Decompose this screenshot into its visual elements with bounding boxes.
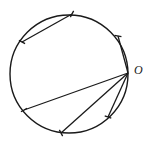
tick-marks-group [19, 11, 122, 136]
tick-mark-point-f [115, 35, 122, 36]
circle-outline [10, 15, 128, 133]
point-label-o: O [134, 64, 143, 76]
geometry-figure-canvas: O [0, 0, 154, 144]
chord-o-to-bottom [61, 73, 128, 133]
circle-chords-diagram [0, 0, 154, 144]
chord-upper-right-to-o [118, 36, 128, 73]
chord-o-to-lower-left [24, 73, 128, 110]
chord-upper-left [22, 14, 72, 42]
